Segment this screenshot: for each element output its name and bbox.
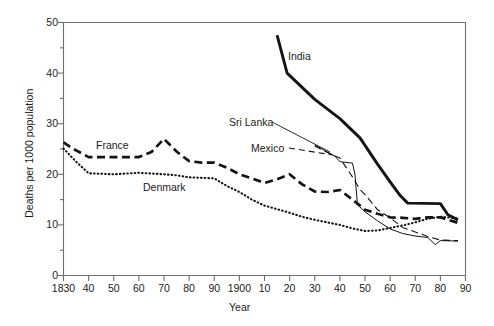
y-tick-label: 0 xyxy=(30,270,58,281)
y-tick-label: 40 xyxy=(30,68,58,79)
y-tick-label: 50 xyxy=(30,17,58,28)
y-tick-label: 30 xyxy=(30,118,58,129)
x-axis-title: Year xyxy=(229,302,250,313)
x-tick-label: 90 xyxy=(449,283,483,294)
series-line-sri-lanka xyxy=(315,145,458,245)
y-axis-title-container: Deaths per 1000 population xyxy=(0,0,26,326)
series-line-denmark xyxy=(64,148,458,230)
death-rate-line-chart: Deaths per 1000 population 01020304050 1… xyxy=(0,0,494,326)
series-label-sri-lanka: Sri Lanka xyxy=(229,117,273,128)
y-tick-label: 20 xyxy=(30,169,58,180)
series-label-mexico: Mexico xyxy=(251,143,284,154)
series-label-france: France xyxy=(96,140,129,151)
series-label-denmark: Denmark xyxy=(143,182,186,193)
y-tick-label: 10 xyxy=(30,219,58,230)
chart-canvas xyxy=(0,0,494,326)
series-label-india: India xyxy=(288,51,311,62)
series-line-india xyxy=(277,35,458,220)
